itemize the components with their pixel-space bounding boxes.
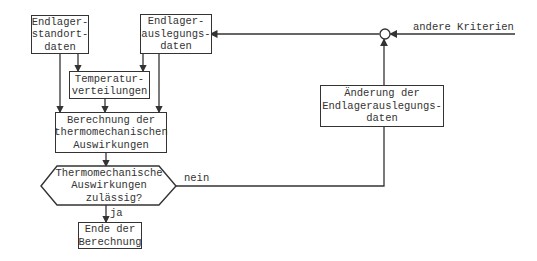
- node-temperatur-line: verteilungen: [72, 85, 148, 98]
- node-standort-line: daten: [44, 41, 76, 54]
- node-aenderung: Änderung der Endlagerauslegungs- daten: [320, 85, 444, 127]
- node-berechnung-line: Auswirkungen: [73, 139, 149, 152]
- node-aenderung-line: Änderung der: [344, 87, 420, 100]
- node-ende: Ende der Berechnung: [78, 222, 142, 249]
- node-berechnung-line: thermomechanischen: [54, 126, 167, 139]
- node-berechnung-line: Berechnung der: [67, 114, 155, 127]
- edge-label-nein: nein: [184, 172, 209, 184]
- node-temperatur: Temperatur- verteilungen: [69, 71, 150, 99]
- node-auslegung-line: auslegungs-: [141, 28, 210, 41]
- node-entscheidung-line: Auswirkungen: [71, 179, 147, 192]
- edge-label-ja: ja: [110, 207, 123, 219]
- node-temperatur-line: Temperatur-: [75, 73, 144, 86]
- node-aenderung-line: Endlagerauslegungs-: [322, 100, 442, 113]
- node-entscheidung-line: Thermomechanische: [55, 167, 162, 180]
- node-ende-line: Ende der: [85, 223, 135, 236]
- node-aenderung-line: daten: [366, 112, 398, 125]
- node-entscheidung: Thermomechanische Auswirkungen zulässig?: [50, 166, 168, 205]
- node-auslegung-line: Endlager-: [148, 15, 205, 28]
- node-standort-line: standort-: [32, 28, 89, 41]
- node-auslegung: Endlager- auslegungs- daten: [140, 14, 212, 54]
- node-entscheidung-line: zulässig?: [76, 192, 143, 205]
- junction-circle: [380, 29, 390, 39]
- node-ende-line: Berechnung: [79, 236, 142, 249]
- node-berechnung: Berechnung der thermomechanischen Auswir…: [55, 112, 167, 153]
- node-auslegung-line: daten: [160, 40, 192, 53]
- node-standort-line: Endlager-: [32, 16, 89, 29]
- edge-label-andere-kriterien: andere Kriterien: [413, 21, 514, 33]
- node-standort: Endlager- standort- daten: [31, 15, 89, 54]
